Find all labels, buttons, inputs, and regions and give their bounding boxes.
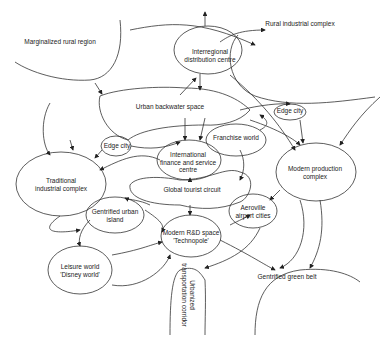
node-gentrified-urban-island: Gentrified urban island: [92, 208, 139, 223]
node-rural-industrial-complex: Rural industrial complex: [265, 20, 334, 28]
node-interregional-distribution-centre: Interregional distribution centre: [184, 48, 235, 63]
node-global-tourist-circuit: Global tourist circuit: [163, 186, 220, 194]
node-modern-production-complex: Modern production complex: [288, 165, 342, 180]
node-international-finance-centre: International finance and service centre: [160, 151, 216, 174]
node-franchise-world: Franchise world: [213, 134, 259, 142]
rural-ind-boundary: [230, 35, 375, 103]
node-leisure-world: Leisure world 'Disney world': [60, 263, 100, 278]
node-aeroville-airport-cities: Aeroville airport cities: [235, 204, 270, 219]
node-edge-city-east: Edge city: [277, 107, 304, 115]
marginalized-boundary: [15, 20, 121, 80]
node-traditional-industrial-complex: Traditional industrial complex: [35, 177, 87, 192]
node-edge-city-west: Edge city: [104, 142, 131, 150]
diagram-canvas: Marginalized rural region Rural industri…: [0, 0, 391, 337]
backwater-boundary: [99, 87, 250, 140]
node-gentrified-green-belt: Gentrified green belt: [258, 273, 317, 281]
node-urbanized-transportation-corridor: Urbanized transportation corridor: [181, 263, 196, 327]
node-urban-backwater-space: Urban backwater space: [136, 103, 204, 111]
node-marginalized-rural-region: Marginalized rural region: [24, 38, 96, 46]
node-modern-rd-technopole: Modern R&D space 'Technopole': [163, 229, 220, 244]
